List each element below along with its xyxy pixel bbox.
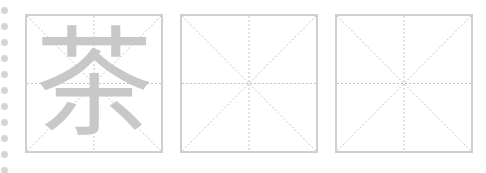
trace-character: 茶 <box>27 16 161 151</box>
binding-hole <box>1 87 8 94</box>
binding-hole <box>1 151 8 158</box>
binding-hole <box>1 119 8 126</box>
practice-cell-1: 茶 <box>25 14 163 153</box>
binding-hole <box>1 167 8 173</box>
binding-hole <box>1 39 8 46</box>
trace-character <box>337 16 471 151</box>
practice-cell-3 <box>335 14 473 153</box>
practice-cell-2 <box>180 14 318 153</box>
trace-character <box>182 16 316 151</box>
binding-hole <box>1 23 8 30</box>
binding-holes <box>0 0 12 173</box>
binding-hole <box>1 71 8 78</box>
binding-hole <box>1 135 8 142</box>
binding-hole <box>1 103 8 110</box>
binding-hole <box>1 55 8 62</box>
binding-hole <box>1 7 8 14</box>
